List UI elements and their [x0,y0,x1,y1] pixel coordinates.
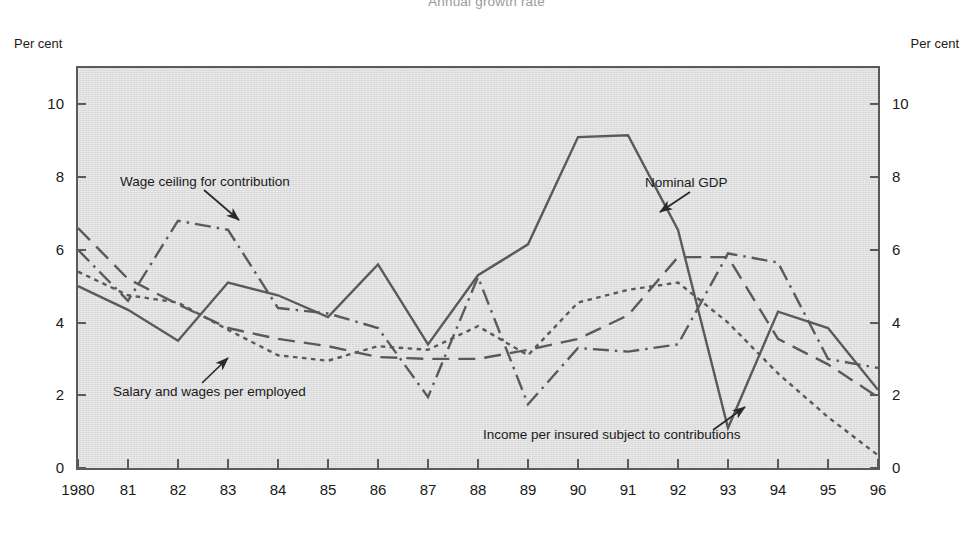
x-tick-label: 86 [370,482,387,497]
y-tick-label-left: 10 [24,96,64,111]
annotation-nominal-gdp: Nominal GDP [645,176,728,190]
y-tick-mark [76,249,86,251]
x-tick-mark [577,459,579,468]
y-tick-label-left: 4 [24,315,64,330]
chart-figure: Annual growth rate Per cent Per cent 024… [0,0,973,536]
plot-area [76,66,880,470]
annotation-income-insured: Income per insured subject to contributi… [483,428,740,442]
y-tick-mark [870,176,880,178]
annotation-wage-ceiling: Wage ceiling for contribution [120,175,290,189]
x-tick-label: 82 [170,482,187,497]
x-tick-mark [777,459,779,468]
x-tick-label: 87 [420,482,437,497]
series-line [78,272,878,456]
y-tick-label-right: 6 [892,242,932,257]
x-tick-label: 91 [620,482,637,497]
y-tick-label-left: 2 [24,387,64,402]
y-tick-label-right: 2 [892,387,932,402]
annotation-salary-wages: Salary and wages per employed [113,385,306,399]
x-tick-label: 85 [320,482,337,497]
x-tick-mark [127,459,129,468]
x-tick-mark [77,459,79,468]
x-tick-mark [827,459,829,468]
x-tick-mark [477,459,479,468]
y-tick-label-left: 0 [24,460,64,475]
x-tick-label: 83 [220,482,237,497]
x-tick-label: 93 [720,482,737,497]
y-tick-mark [76,103,86,105]
x-tick-label: 92 [670,482,687,497]
x-tick-mark [627,459,629,468]
x-tick-mark [727,459,729,468]
y-tick-label-left: 6 [24,242,64,257]
y-tick-mark [870,249,880,251]
y-tick-mark [870,103,880,105]
x-tick-label: 89 [520,482,537,497]
y-tick-label-right: 8 [892,169,932,184]
y-tick-mark [76,394,86,396]
y-tick-label-right: 4 [892,315,932,330]
x-tick-mark [427,459,429,468]
x-tick-label: 95 [820,482,837,497]
x-tick-mark [377,459,379,468]
x-tick-label: 90 [570,482,587,497]
y-tick-mark [870,394,880,396]
x-tick-mark [177,459,179,468]
y-tick-label-right: 0 [892,460,932,475]
x-tick-label: 94 [770,482,787,497]
x-tick-mark [527,459,529,468]
y-axis-caption-left: Per cent [14,36,62,51]
y-tick-mark [76,322,86,324]
chart-title: Annual growth rate [0,0,973,9]
x-tick-mark [877,459,879,468]
x-tick-label: 96 [870,482,887,497]
x-tick-mark [327,459,329,468]
series-canvas [78,68,878,468]
y-tick-mark [870,322,880,324]
y-axis-caption-right: Per cent [911,36,959,51]
x-tick-mark [227,459,229,468]
x-tick-mark [677,459,679,468]
y-tick-label-left: 8 [24,169,64,184]
x-tick-label: 81 [120,482,137,497]
x-tick-label: 88 [470,482,487,497]
x-tick-mark [277,459,279,468]
y-tick-mark [76,176,86,178]
x-tick-label: 1980 [61,482,94,497]
x-tick-label: 84 [270,482,287,497]
y-tick-label-right: 10 [892,96,932,111]
